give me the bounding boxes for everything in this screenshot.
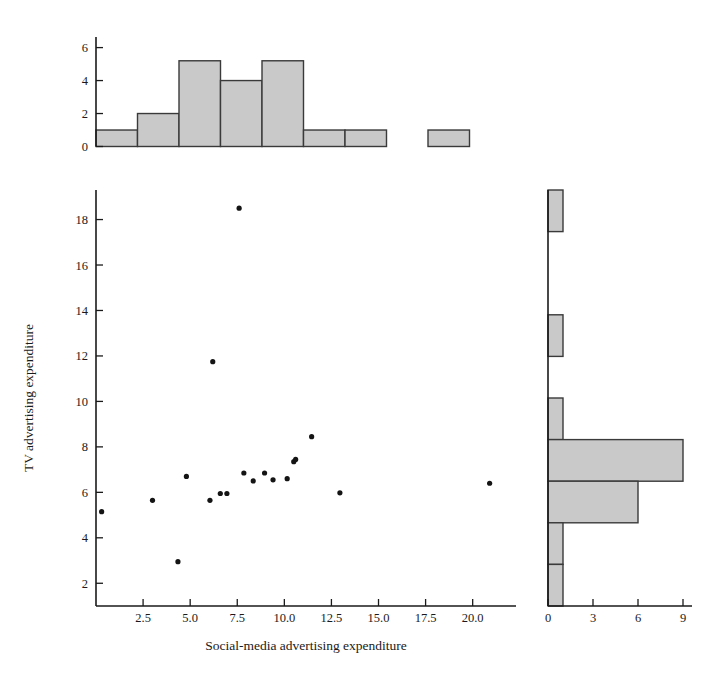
scatter-point [270,477,275,482]
top-hist-bar [428,130,470,146]
scatter-point [309,434,314,439]
scatter-point [99,509,104,514]
scatter-points [99,206,492,565]
top-hist-y-tick-label: 0 [82,140,88,154]
right-hist-x-ticks [548,599,683,606]
scatter-point [262,470,267,475]
x-axis-title: Social-media advertising expenditure [205,638,407,653]
scatter-point [184,474,189,479]
right-hist-x-tick-label: 3 [590,611,596,625]
x-tick-label: 20.0 [462,611,484,625]
joint-plot-figure: 0246 24681012141618 2.55.07.510.012.515.… [0,0,709,683]
scatter-y-ticks [96,220,103,584]
right-hist-bar [548,481,638,523]
scatter-point [251,478,256,483]
scatter-panel: 24681012141618 2.55.07.510.012.515.017.5… [21,190,516,653]
right-hist-x-tick-labels: 0369 [545,611,686,625]
x-tick-label: 5.0 [182,611,198,625]
scatter-point [218,491,223,496]
scatter-point [487,481,492,486]
y-tick-label: 4 [82,531,89,545]
x-tick-label: 15.0 [368,611,390,625]
x-tick-label: 17.5 [415,611,437,625]
top-hist-y-tick-labels: 0246 [82,41,89,154]
scatter-x-tick-labels: 2.55.07.510.012.515.017.520.0 [135,611,483,625]
scatter-point [207,498,212,503]
right-hist-bar [548,315,563,357]
top-hist-bar [138,114,180,147]
top-hist-bar [179,61,221,147]
x-tick-label: 10.0 [273,611,295,625]
scatter-y-tick-labels: 24681012141618 [76,213,89,591]
y-axis-title: TV advertising expenditure [21,324,36,472]
x-tick-label: 2.5 [135,611,151,625]
top-hist-bar [345,130,387,146]
scatter-point [237,206,242,211]
scatter-point [285,476,290,481]
y-tick-label: 6 [82,486,88,500]
y-tick-label: 14 [76,304,89,318]
scatter-point [175,559,180,564]
right-hist-bar [548,564,563,606]
top-hist-bar [221,81,263,147]
scatter-point [241,470,246,475]
y-tick-label: 16 [76,259,89,273]
right-hist-x-tick-label: 9 [680,611,686,625]
top-hist-bar [304,130,346,146]
right-hist-bar [548,398,563,440]
right-hist-bars [548,190,683,606]
top-hist-y-tick-label: 4 [82,74,89,88]
top-hist-bars [96,61,470,147]
top-hist-y-tick-label: 2 [82,107,88,121]
y-tick-label: 12 [76,349,89,363]
scatter-point [150,498,155,503]
y-tick-label: 2 [82,577,88,591]
right-hist-x-tick-label: 6 [635,611,641,625]
x-tick-label: 7.5 [229,611,245,625]
right-hist-bar [548,523,563,565]
right-marginal-histogram: 0369 [545,190,692,625]
y-tick-label: 18 [76,213,89,227]
top-marginal-histogram: 0246 [82,37,470,154]
scatter-point [224,491,229,496]
scatter-point [293,457,298,462]
scatter-point [210,359,215,364]
top-hist-bar [96,130,138,146]
scatter-x-ticks [143,599,473,606]
x-tick-label: 12.5 [320,611,342,625]
y-tick-label: 8 [82,440,88,454]
scatter-point [337,490,342,495]
right-hist-bar [548,190,563,232]
right-hist-bar [548,440,683,482]
top-hist-y-tick-label: 6 [82,41,88,55]
right-hist-x-tick-label: 0 [545,611,551,625]
y-tick-label: 10 [76,395,89,409]
joint-plot-svg: 0246 24681012141618 2.55.07.510.012.515.… [0,0,709,683]
top-hist-bar [262,61,304,147]
